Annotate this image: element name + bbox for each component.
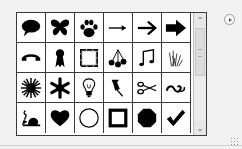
shape-cell-light-bulb[interactable] bbox=[75, 73, 104, 103]
resize-grip-icon[interactable] bbox=[230, 137, 240, 147]
snail-icon bbox=[20, 107, 42, 129]
shape-cell-square-frame[interactable] bbox=[104, 103, 133, 133]
square-frame-icon bbox=[107, 107, 129, 129]
shape-cell-starburst[interactable] bbox=[17, 73, 46, 103]
scroll-down-button[interactable]: ⌄ bbox=[194, 121, 206, 135]
paw-print-icon bbox=[78, 17, 100, 39]
ornament-swirl-icon bbox=[165, 77, 187, 99]
shape-cell-paw-print[interactable] bbox=[75, 13, 104, 43]
shape-cell-scissors[interactable] bbox=[133, 73, 162, 103]
telephone-handset-icon bbox=[20, 47, 42, 69]
arrow-right-icon bbox=[136, 17, 158, 39]
chevron-up-icon: ⌃ bbox=[197, 16, 204, 25]
thumbtack-icon bbox=[107, 77, 129, 99]
butterfly-icon bbox=[49, 17, 71, 39]
ribbon-award-icon bbox=[49, 47, 71, 69]
chevron-down-icon: ⌄ bbox=[197, 124, 204, 133]
snowflake-icon bbox=[49, 77, 71, 99]
checkmark-icon bbox=[165, 107, 187, 129]
scissors-icon bbox=[136, 77, 158, 99]
shape-cell-ribbon[interactable] bbox=[46, 43, 75, 73]
divider bbox=[0, 145, 242, 146]
grass-icon bbox=[165, 47, 187, 69]
shape-grid bbox=[17, 13, 193, 135]
panel-menu-button[interactable] bbox=[224, 14, 235, 25]
shape-cell-snail[interactable] bbox=[17, 103, 46, 133]
shape-cell-telephone[interactable] bbox=[17, 43, 46, 73]
shape-cell-checkmark[interactable] bbox=[162, 103, 191, 133]
shape-cell-arrow[interactable] bbox=[133, 13, 162, 43]
shape-cell-bold-arrow[interactable] bbox=[162, 13, 191, 43]
shape-cell-speech-bubble[interactable] bbox=[17, 13, 46, 43]
shape-cell-grass[interactable] bbox=[162, 43, 191, 73]
vertical-scrollbar[interactable]: ⌃ ⌄ bbox=[193, 13, 206, 135]
octagon-icon bbox=[136, 107, 158, 129]
light-bulb-icon bbox=[78, 77, 100, 99]
shape-cell-ornament[interactable] bbox=[162, 73, 191, 103]
shape-picker: ⌃ ⌄ bbox=[16, 12, 207, 136]
play-right-icon bbox=[229, 18, 232, 22]
circle-outline-icon bbox=[78, 107, 100, 129]
speech-bubble-icon bbox=[20, 17, 42, 39]
shape-cell-music-notes[interactable] bbox=[133, 43, 162, 73]
shape-cell-thumbtack[interactable] bbox=[104, 73, 133, 103]
thin-arrow-right-icon bbox=[107, 17, 129, 39]
heart-icon bbox=[49, 107, 71, 129]
shape-cell-butterfly[interactable] bbox=[46, 13, 75, 43]
starburst-icon bbox=[20, 77, 42, 99]
rough-frame-icon bbox=[78, 47, 100, 69]
shape-picker-panel: ⌃ ⌄ bbox=[0, 0, 242, 149]
shape-cell-circle-frame[interactable] bbox=[75, 103, 104, 133]
shape-cell-snowflake[interactable] bbox=[46, 73, 75, 103]
bold-arrow-right-icon bbox=[165, 17, 187, 39]
shape-cell-cherries[interactable] bbox=[104, 43, 133, 73]
shape-cell-heart[interactable] bbox=[46, 103, 75, 133]
scrollbar-thumb[interactable] bbox=[195, 28, 205, 76]
shape-cell-octagon[interactable] bbox=[133, 103, 162, 133]
cherries-icon bbox=[107, 47, 129, 69]
music-notes-icon bbox=[136, 47, 158, 69]
scroll-up-button[interactable]: ⌃ bbox=[194, 13, 206, 27]
grip-lines-icon bbox=[198, 49, 202, 57]
shape-cell-frame[interactable] bbox=[75, 43, 104, 73]
shape-cell-thin-arrow[interactable] bbox=[104, 13, 133, 43]
